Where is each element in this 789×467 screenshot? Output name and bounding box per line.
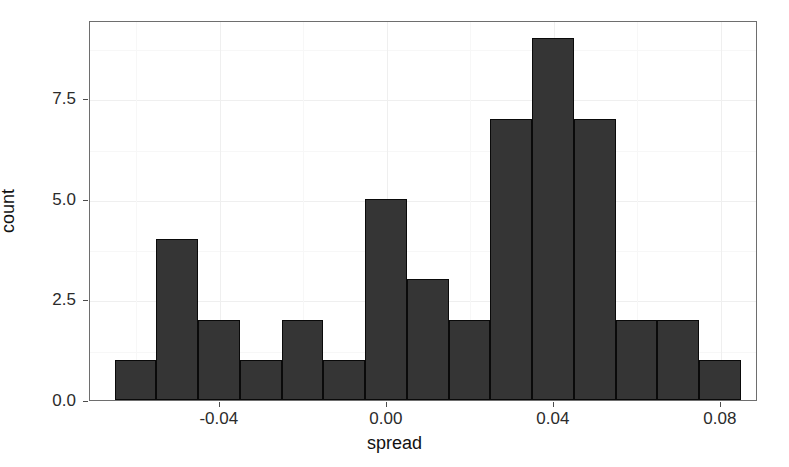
x-tick-label: 0.08 (703, 409, 736, 429)
x-axis-label: spread (0, 433, 789, 454)
y-tick-mark (83, 200, 88, 201)
histogram-bar (115, 360, 157, 400)
histogram-bar (699, 360, 741, 400)
y-axis-label: count (0, 189, 19, 233)
histogram-bar (282, 320, 324, 400)
histogram-bar (490, 119, 532, 400)
y-tick-mark (83, 401, 88, 402)
y-tick-label: 2.5 (52, 290, 76, 310)
x-tick-label: 0.04 (536, 409, 569, 429)
x-tick-label: -0.04 (199, 409, 238, 429)
histogram-bar (198, 320, 240, 400)
x-tick-mark (553, 402, 554, 407)
histogram-bar (240, 360, 282, 400)
x-tick-label: 0.00 (369, 409, 402, 429)
y-tick-label: 0.0 (52, 391, 76, 411)
y-tick-label: 7.5 (52, 89, 76, 109)
histogram-bar (574, 119, 616, 400)
plot-panel (89, 21, 757, 401)
histogram-bar (532, 38, 574, 400)
histogram-bar (616, 320, 658, 400)
x-tick-mark (720, 402, 721, 407)
y-tick-mark (83, 99, 88, 100)
x-tick-mark (219, 402, 220, 407)
histogram-bar (407, 279, 449, 400)
histogram-figure: 0.02.55.07.5 -0.040.000.040.08 spread co… (0, 0, 789, 467)
histogram-bar (657, 320, 699, 400)
y-tick-mark (83, 300, 88, 301)
histogram-bar (365, 199, 407, 400)
y-tick-label: 5.0 (52, 190, 76, 210)
histogram-bar (156, 239, 198, 400)
histogram-bar (449, 320, 491, 400)
histogram-bar (323, 360, 365, 400)
x-tick-mark (386, 402, 387, 407)
histogram-bars (90, 22, 756, 400)
